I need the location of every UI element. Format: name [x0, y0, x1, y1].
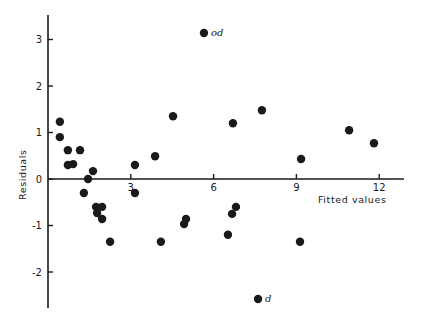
- y-tick-label: 0: [36, 174, 42, 185]
- x-axis-label: Fitted values: [318, 194, 386, 205]
- data-point: [229, 119, 237, 127]
- data-point: [254, 295, 262, 303]
- data-point: [80, 189, 88, 197]
- data-point: [345, 126, 353, 134]
- y-tick-label: 3: [36, 34, 42, 45]
- data-point: [370, 139, 378, 147]
- data-point: [56, 118, 64, 126]
- data-point: [157, 238, 165, 246]
- data-point: [64, 146, 72, 154]
- data-point: [131, 161, 139, 169]
- y-tick-label: -1: [32, 220, 42, 231]
- y-tick-label: 1: [36, 127, 42, 138]
- data-point: [131, 189, 139, 197]
- data-point: [84, 175, 92, 183]
- data-point: [151, 152, 159, 160]
- data-point: [224, 231, 232, 239]
- data-point: [76, 146, 84, 154]
- x-tick-label: 9: [293, 182, 299, 193]
- y-tick-label: -2: [32, 267, 42, 278]
- point-annotation: od: [211, 27, 223, 38]
- x-tick-label: 6: [210, 182, 216, 193]
- data-point: [258, 106, 266, 114]
- data-point: [232, 203, 240, 211]
- data-point: [169, 112, 177, 120]
- y-axis-label: Residuals: [17, 150, 28, 200]
- data-point: [69, 160, 77, 168]
- x-tick-label: 12: [373, 182, 386, 193]
- axis-ticks: 3210-1-236912: [32, 34, 386, 278]
- data-point: [106, 238, 114, 246]
- data-point: [56, 133, 64, 141]
- data-point: [200, 29, 208, 37]
- y-tick-label: 2: [36, 81, 42, 92]
- data-point: [296, 238, 304, 246]
- data-point: [89, 167, 97, 175]
- point-annotation: d: [265, 293, 271, 304]
- axes: [48, 15, 404, 308]
- residual-scatter-plot: 3210-1-236912 odd Fitted values Residual…: [0, 0, 424, 325]
- data-point: [182, 215, 190, 223]
- point-annotations: odd: [211, 27, 272, 304]
- data-point: [98, 215, 106, 223]
- data-point: [297, 155, 305, 163]
- data-points: [56, 29, 378, 303]
